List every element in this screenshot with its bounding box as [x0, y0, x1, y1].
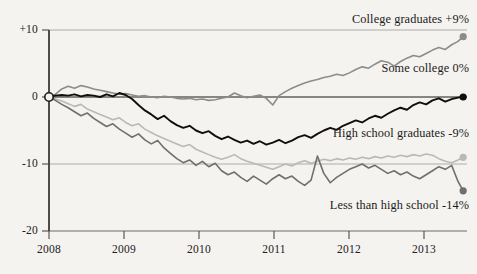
ytick-label-minus10: -10: [2, 157, 38, 169]
series-endpoint-some-college: [460, 93, 467, 100]
series-label-less-than-high-school: Less than high school -14%: [330, 198, 469, 213]
series-line-less-than-high-school: [49, 97, 463, 191]
series-label-high-school-graduates: High school graduates -9%: [333, 126, 469, 141]
series-paths: [49, 33, 467, 194]
series-label-some-college: Some college 0%: [381, 61, 469, 76]
series-endpoint-less-than-high-school: [460, 187, 467, 194]
xtick-label-2011: 2011: [244, 243, 304, 255]
ytick-label-zero: 0: [2, 90, 38, 102]
series-endpoint-high-school-graduates: [460, 154, 467, 161]
series-endpoint-college-graduates: [460, 33, 467, 40]
xtick-label-2009: 2009: [94, 243, 154, 255]
xtick-label-2010: 2010: [169, 243, 229, 255]
series-label-college-graduates: College graduates +9%: [352, 12, 469, 27]
y-axis-ticks: [42, 30, 49, 231]
ytick-label-minus20: -20: [2, 224, 38, 236]
ytick-label-plus10: +10: [2, 23, 38, 35]
origin-marker: [45, 93, 53, 101]
xtick-label-2013: 2013: [394, 243, 454, 255]
x-axis-ticks: [49, 231, 424, 239]
education-employment-line-chart: +10 0 -10 -20 2008 2009 2010 2011 2012 2…: [0, 0, 477, 274]
xtick-label-2008: 2008: [19, 243, 79, 255]
xtick-label-2012: 2012: [319, 243, 379, 255]
